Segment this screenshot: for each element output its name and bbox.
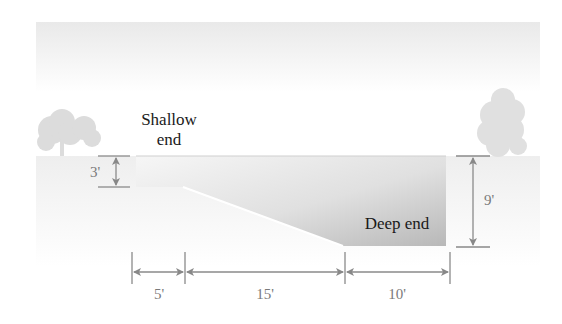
tree-left-icon [37, 109, 101, 156]
shallow-end-label: Shallow end [128, 110, 210, 150]
shallow-label-line1: Shallow [128, 110, 210, 130]
segment-3-length: 10' [382, 286, 412, 302]
shallow-depth-value: 3' [82, 164, 108, 180]
segment-1-length: 5' [146, 286, 172, 302]
tree-right-icon [477, 88, 527, 157]
sky [36, 22, 540, 92]
deep-end-label: Deep end [352, 214, 442, 234]
pool-diagram [0, 0, 562, 324]
shallow-label-line2: end [128, 130, 210, 150]
deep-depth-value: 9' [476, 192, 502, 208]
segment-2-length: 15' [250, 286, 280, 302]
